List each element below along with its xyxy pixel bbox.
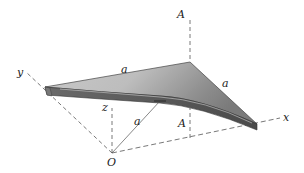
- diagram-canvas: y x z O a a a A A: [0, 0, 304, 173]
- label-z-axis: z: [101, 101, 108, 114]
- label-section-bottom: A: [177, 117, 186, 130]
- label-edge-top: a: [121, 63, 128, 76]
- label-y-axis: y: [16, 66, 24, 79]
- label-x-axis: x: [283, 111, 290, 124]
- label-radius: a: [134, 115, 141, 128]
- label-origin: O: [107, 156, 116, 169]
- label-edge-right: a: [222, 77, 229, 90]
- curved-plate: [45, 62, 257, 130]
- label-section-top: A: [176, 8, 185, 21]
